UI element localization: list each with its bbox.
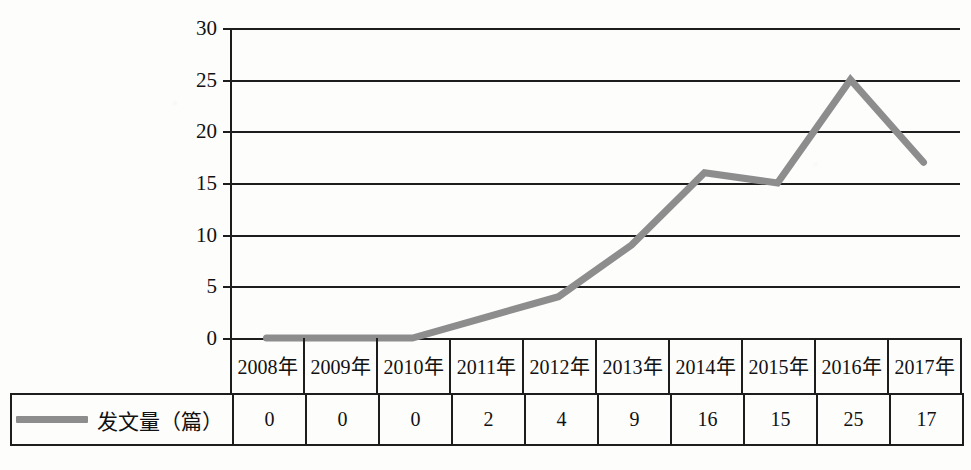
y-tick-label-25: 25	[157, 69, 217, 90]
table-value-cell: 16	[670, 395, 743, 444]
y-tick-5	[223, 286, 230, 288]
y-tick-label-30: 30	[157, 18, 217, 39]
table-header-cell: 2010年	[376, 338, 449, 393]
table-value-cell: 15	[743, 395, 816, 444]
data-table: 2008年2009年2010年2011年2012年2013年2014年2015年…	[10, 338, 961, 448]
table-header-cell: 2017年	[887, 338, 960, 393]
table-header-cell: 2012年	[522, 338, 595, 393]
y-tick-20	[223, 131, 230, 133]
table-header-cell: 2016年	[814, 338, 887, 393]
table-header-cell: 2008年	[230, 338, 303, 393]
legend-entry: 发文量（篇）	[12, 395, 232, 444]
table-value-cell: 0	[378, 395, 451, 444]
series-line-fawenliang	[230, 28, 960, 338]
y-tick-25	[223, 80, 230, 82]
y-tick-label-15: 15	[157, 173, 217, 194]
y-tick-label-20: 20	[157, 121, 217, 142]
table-header-cell: 2013年	[595, 338, 668, 393]
y-tick-30	[223, 28, 230, 30]
y-tick-15	[223, 183, 230, 185]
table-value-cell: 4	[524, 395, 597, 444]
line-chart-figure: 051015202530 2008年2009年2010年2011年2012年20…	[0, 0, 971, 470]
table-header-row: 2008年2009年2010年2011年2012年2013年2014年2015年…	[230, 338, 962, 393]
table-value-cell: 9	[597, 395, 670, 444]
table-header-cell: 2009年	[303, 338, 376, 393]
y-axis-labels: 051015202530	[155, 28, 217, 338]
y-tick-label-10: 10	[157, 224, 217, 245]
table-value-cell: 17	[889, 395, 962, 444]
table-value-cell: 2	[451, 395, 524, 444]
table-value-cell: 0	[232, 395, 305, 444]
table-header-cell: 2015年	[741, 338, 814, 393]
legend-line-swatch	[16, 416, 88, 423]
table-header-cell: 2014年	[668, 338, 741, 393]
plot-area	[230, 28, 960, 338]
table-header-cell: 2011年	[449, 338, 522, 393]
legend-label: 发文量（篇）	[97, 405, 223, 435]
table-value-cell: 25	[816, 395, 889, 444]
y-tick-10	[223, 235, 230, 237]
table-value-cell: 0	[305, 395, 378, 444]
value-cells: 00024916152517	[232, 395, 962, 444]
y-tick-label-5: 5	[157, 276, 217, 297]
table-value-row: 发文量（篇） 00024916152517	[10, 393, 964, 446]
